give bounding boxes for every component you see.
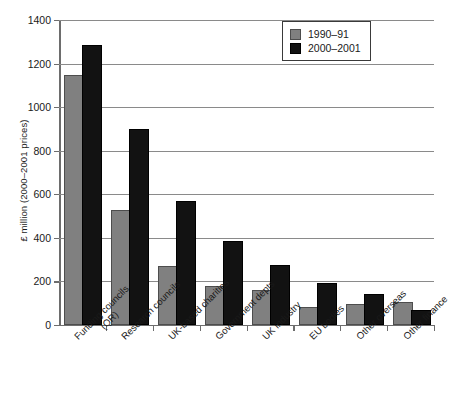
y-tick-label-1000: 1000 — [7, 102, 51, 112]
bar-1-0 — [82, 45, 102, 325]
x-tick-mark-3 — [247, 325, 248, 331]
y-tick-label-400: 400 — [7, 233, 51, 243]
gridline-600 — [59, 194, 434, 195]
x-tick-mark-7 — [434, 325, 435, 331]
x-tick-mark-1 — [153, 325, 154, 331]
gridline-800 — [59, 151, 434, 152]
y-tick-label-200: 200 — [7, 276, 51, 286]
y-tick-label-1200: 1200 — [7, 59, 51, 69]
x-tick-mark-2 — [200, 325, 201, 331]
y-tick-mark-0 — [54, 325, 59, 326]
bar-0-6 — [346, 304, 366, 325]
y-tick-label-1400: 1400 — [7, 15, 51, 25]
bar-chart: £ million (2000–2001 prices) 02004006008… — [0, 0, 449, 415]
legend-item-1: 2000–2001 — [290, 41, 361, 55]
x-tick-mark-5 — [340, 325, 341, 331]
plot-area — [59, 20, 434, 325]
series-0-swatch — [290, 29, 301, 40]
y-tick-mark-1000 — [54, 107, 59, 108]
y-tick-label-800: 800 — [7, 146, 51, 156]
y-tick-mark-800 — [54, 151, 59, 152]
x-tick-mark-6 — [387, 325, 388, 331]
y-tick-mark-400 — [54, 238, 59, 239]
series-1-swatch — [290, 43, 301, 54]
gridline-1000 — [59, 107, 434, 108]
legend-item-0: 1990–91 — [290, 27, 361, 41]
chart-legend: 1990–912000–2001 — [282, 21, 371, 61]
y-tick-mark-200 — [54, 281, 59, 282]
y-axis-title: £ million (2000–2001 prices) — [18, 86, 29, 276]
y-tick-label-600: 600 — [7, 189, 51, 199]
bar-0-0 — [64, 75, 84, 325]
legend-label-1: 2000–2001 — [308, 43, 361, 54]
y-tick-mark-600 — [54, 194, 59, 195]
bar-0-5 — [299, 307, 319, 325]
y-tick-mark-1400 — [54, 20, 59, 21]
y-tick-mark-1200 — [54, 64, 59, 65]
legend-label-0: 1990–91 — [308, 29, 349, 40]
gridline-1200 — [59, 64, 434, 65]
y-tick-label-0: 0 — [7, 320, 51, 330]
x-tick-mark-4 — [293, 325, 294, 331]
gridline-1400 — [59, 20, 434, 21]
